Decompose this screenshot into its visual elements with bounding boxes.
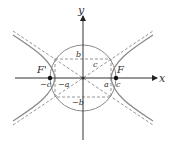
origin-point	[82, 77, 85, 80]
label-a-right: a	[104, 80, 109, 89]
label-c-right: c	[116, 80, 121, 89]
label-c-left: −c	[40, 80, 52, 89]
hyperbola-diagram: x y F F' c −c a −a b −b c	[0, 0, 172, 146]
y-axis-label: y	[77, 4, 85, 17]
label-a-left: −a	[58, 80, 70, 89]
x-axis-label: x	[159, 72, 166, 85]
label-c-diagonal: c	[93, 60, 98, 69]
focus-right-label: F	[116, 64, 125, 75]
label-b-bottom: −b	[72, 98, 84, 107]
focus-left-label: F'	[36, 64, 47, 75]
label-b-top: b	[76, 50, 81, 59]
